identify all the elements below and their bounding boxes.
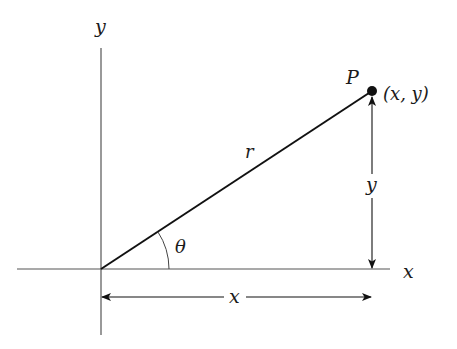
point-coords-label: (x, y) (383, 83, 429, 104)
polar-coordinates-diagram: y x P (x, y) r θ y x (0, 0, 457, 349)
radius-segment (101, 91, 372, 269)
angle-label: θ (175, 236, 186, 257)
x-axis-label: x (403, 260, 414, 282)
y-dimension-label: y (365, 173, 377, 195)
point-p-marker (367, 86, 377, 96)
y-axis-label: y (94, 15, 106, 37)
radius-label: r (245, 141, 255, 162)
point-p-label: P (345, 66, 360, 88)
x-dimension-label: x (229, 285, 240, 307)
angle-arc (158, 232, 169, 269)
